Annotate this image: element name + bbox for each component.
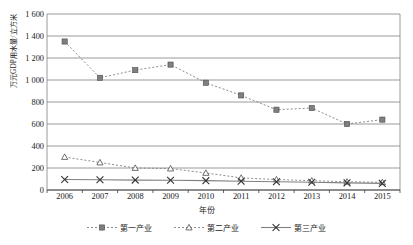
data-point-square xyxy=(274,107,279,112)
y-axis-tick-label: 0 xyxy=(2,186,44,195)
chart-legend: 第一产业第二产业第三产业 xyxy=(0,222,413,233)
data-point-square xyxy=(239,93,244,98)
legend-item[interactable]: 第三产业 xyxy=(261,222,326,233)
y-axis-tick-label: 1 600 xyxy=(2,10,44,19)
y-axis-tick-label: 400 xyxy=(2,142,44,151)
data-point-triangle xyxy=(62,154,68,160)
legend-item[interactable]: 第一产业 xyxy=(87,222,152,233)
data-point-square xyxy=(344,121,349,126)
y-axis-tick-label: 1 400 xyxy=(2,32,44,41)
series-line xyxy=(65,180,383,184)
data-point-square xyxy=(99,225,104,230)
series-line xyxy=(65,157,383,182)
legend-marker-triangle-icon xyxy=(174,223,204,232)
data-point-square xyxy=(203,80,208,85)
legend-item[interactable]: 第二产业 xyxy=(174,222,239,233)
legend-marker-x-icon xyxy=(261,223,291,232)
y-axis-tick-label: 800 xyxy=(2,98,44,107)
data-point-square xyxy=(133,68,138,73)
chart-container: 万元GDP用水量/立方米 02004006008001 0001 2001 40… xyxy=(0,0,413,245)
legend-label: 第二产业 xyxy=(207,222,239,233)
y-axis-tick-label: 1 000 xyxy=(2,76,44,85)
legend-marker-square-icon xyxy=(87,223,117,232)
x-axis-tick-label: 2015 xyxy=(360,192,404,201)
data-point-square xyxy=(168,62,173,67)
legend-label: 第一产业 xyxy=(120,222,152,233)
x-axis-title: 年份 xyxy=(0,204,413,215)
data-point-square xyxy=(97,75,102,80)
data-point-square xyxy=(380,117,385,122)
data-point-square xyxy=(309,105,314,110)
legend-label: 第三产业 xyxy=(294,222,326,233)
series-line xyxy=(65,42,383,125)
data-point-square xyxy=(62,39,67,44)
y-axis-tick-label: 600 xyxy=(2,120,44,129)
y-axis-tick-label: 200 xyxy=(2,164,44,173)
y-axis-tick-label: 1 200 xyxy=(2,54,44,63)
